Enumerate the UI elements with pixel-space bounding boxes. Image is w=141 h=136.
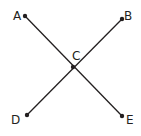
point-c-dot: [71, 65, 75, 69]
point-d-label: D: [11, 113, 20, 127]
point-c-label: C: [72, 49, 80, 63]
point-e-label: E: [126, 113, 134, 127]
point-b-label: B: [124, 9, 132, 23]
point-a-dot: [23, 14, 27, 18]
point-d-dot: [25, 113, 29, 117]
line-intersection-diagram: A B C D E: [0, 0, 141, 136]
point-a-label: A: [13, 9, 22, 23]
point-e-dot: [120, 114, 124, 118]
